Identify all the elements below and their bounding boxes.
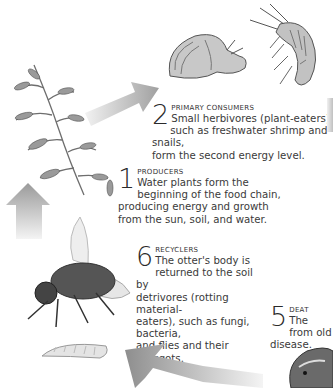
step-number: 5 (270, 306, 287, 328)
step-number: 1 (118, 168, 135, 190)
fly-illustration (18, 215, 133, 335)
otter-illustration (285, 345, 333, 388)
step-title: PRIMARY CONSUMERS (152, 104, 333, 113)
arrow-stub-right (327, 98, 333, 132)
step-producers: 1 PRODUCERS Water plants form the beginn… (118, 167, 288, 226)
arrow-death-to-recyclers (123, 340, 263, 388)
step-text-line: eaters), such as fungi, bacteria, (136, 316, 250, 339)
freshwater-shrimp-illustration (240, 0, 330, 95)
step-primary-consumers: 2 PRIMARY CONSUMERS Small herbivores (pl… (152, 103, 333, 162)
step-text-line: returned to the soil by (136, 267, 253, 290)
step-text-line: beginning of the food chain, (137, 189, 281, 200)
maggot-illustration (40, 338, 110, 363)
step-text-line: The (289, 315, 308, 326)
step-number: 2 (152, 104, 169, 126)
step-text-line: Small herbivores (plant-eaters), (171, 113, 333, 124)
step-title: PRODUCERS (118, 168, 288, 177)
step-text-line: detrivores (rotting material- (136, 292, 229, 315)
step-text-line: Water plants form the (137, 177, 249, 188)
step-text-line: The otter's body is (155, 255, 250, 266)
step-text-line: from the sun, soil, and water. (118, 214, 267, 225)
step-text-line: producing energy and growth (118, 201, 269, 212)
step-text-line: form the second energy level. (152, 150, 305, 161)
step-number: 6 (136, 246, 153, 268)
step-text-line: such as freshwater shrimp and snails, (152, 125, 327, 148)
step-text-line: from old (289, 327, 331, 338)
step-title: RECYCLERS (136, 246, 266, 255)
